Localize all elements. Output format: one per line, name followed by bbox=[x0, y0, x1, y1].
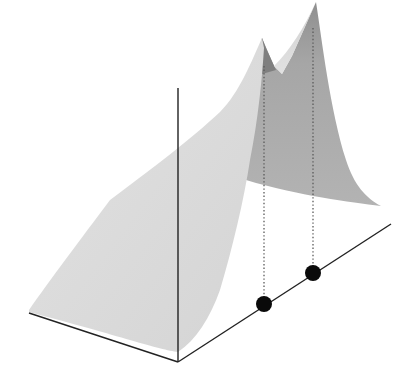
peak-notch-shadow bbox=[262, 38, 276, 74]
front-surface bbox=[29, 38, 264, 352]
projection-dot-1 bbox=[256, 296, 272, 312]
diagram-canvas bbox=[0, 0, 412, 392]
projection-dot-2 bbox=[305, 265, 321, 281]
surface-diagram: 3D surface with two peaks projected onto… bbox=[0, 0, 412, 392]
